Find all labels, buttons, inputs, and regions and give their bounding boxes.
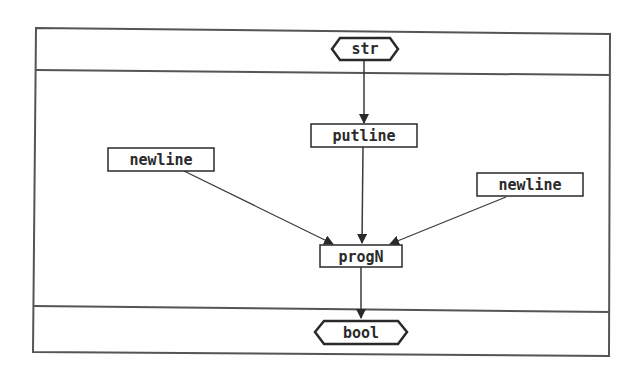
node-label: putline (332, 127, 395, 145)
node-putline[interactable]: putline (311, 124, 417, 147)
input-node-str[interactable]: str (332, 38, 398, 60)
edge-newline-left-to-progn (184, 171, 333, 244)
node-newline-right[interactable]: newline (477, 173, 583, 196)
node-newline-left[interactable]: newline (108, 148, 214, 171)
node-label: newline (129, 151, 192, 169)
dataflow-diagram: str putline newline newline progN bool (0, 0, 635, 379)
node-label: progN (338, 248, 383, 266)
node-progn[interactable]: progN (320, 245, 402, 267)
edges (184, 61, 506, 318)
node-label: str (351, 40, 378, 58)
output-node-bool[interactable]: bool (315, 321, 407, 344)
output-section-divider (33, 306, 609, 312)
edge-newline-right-to-progn (390, 197, 506, 244)
input-section-divider (36, 70, 610, 75)
node-label: newline (498, 176, 561, 194)
edge-putline-to-progn (362, 147, 363, 243)
node-label: bool (343, 324, 379, 342)
